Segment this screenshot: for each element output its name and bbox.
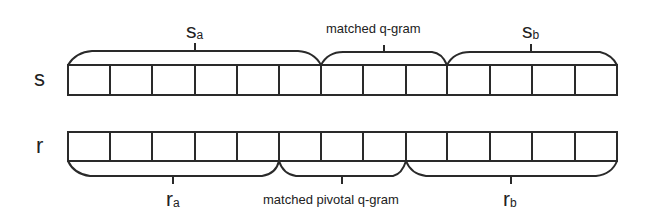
brace-r-match	[279, 161, 406, 176]
label-s-a-sub: a	[197, 28, 204, 42]
brace-r-b	[406, 161, 617, 176]
label-s-b-sub: b	[533, 28, 540, 42]
label-s-b-main: s	[522, 19, 533, 42]
label-r-b-sub: b	[510, 196, 517, 210]
label-s-b: sb	[522, 20, 539, 45]
label-r-b-main: r	[503, 187, 510, 210]
row-label-r: r	[36, 135, 43, 157]
label-matched-q-gram: matched q-gram	[326, 22, 421, 35]
label-r-a-sub: a	[173, 196, 180, 210]
label-r-b: rb	[503, 188, 517, 213]
brace-s-a	[68, 51, 321, 65]
label-s-a: sa	[186, 20, 203, 45]
row-label-s: s	[34, 68, 45, 90]
brace-s-match	[321, 52, 447, 65]
s-array	[68, 65, 617, 95]
label-matched-pivotal-q-gram: matched pivotal q-gram	[263, 193, 399, 206]
label-s-a-main: s	[186, 19, 197, 42]
brace-s-b	[447, 52, 617, 65]
r-array	[68, 132, 617, 161]
label-r-a: ra	[166, 188, 180, 213]
brace-r-a	[68, 161, 279, 176]
label-r-a-main: r	[166, 187, 173, 210]
